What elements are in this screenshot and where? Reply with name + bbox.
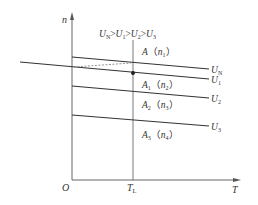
point-label-a1: A1（n2） (141, 79, 179, 91)
voltage-relation-title: UN>U1>U2>U3 (99, 29, 156, 40)
point-label-a3: A3（n4） (141, 129, 179, 141)
tl-label: TL (127, 182, 137, 194)
curve-label-u2: U2 (211, 94, 221, 105)
origin-label: O (62, 182, 69, 193)
point-label-a2: A2（n3） (141, 99, 179, 111)
curve-label-u3: U3 (211, 122, 221, 133)
characteristic-curves (20, 57, 209, 126)
curve-label-u1: U1 (211, 75, 221, 86)
curve-u2 (72, 86, 209, 98)
x-axis-label: T (232, 184, 239, 195)
y-axis-label: n (62, 14, 67, 25)
transition-dashed-line (74, 63, 131, 67)
motor-speed-torque-diagram: n O TL T UN>U1>U2>U3 UN U1 U2 U3 A（n1） A… (0, 0, 258, 205)
curve-u3 (72, 115, 209, 126)
curve-u1 (20, 62, 209, 79)
y-axis-arrow-icon (70, 12, 74, 20)
x-axis-arrow-icon (233, 178, 241, 182)
curve-un (72, 57, 209, 69)
operating-point-dot (131, 71, 135, 75)
point-label-a: A（n1） (141, 46, 176, 58)
